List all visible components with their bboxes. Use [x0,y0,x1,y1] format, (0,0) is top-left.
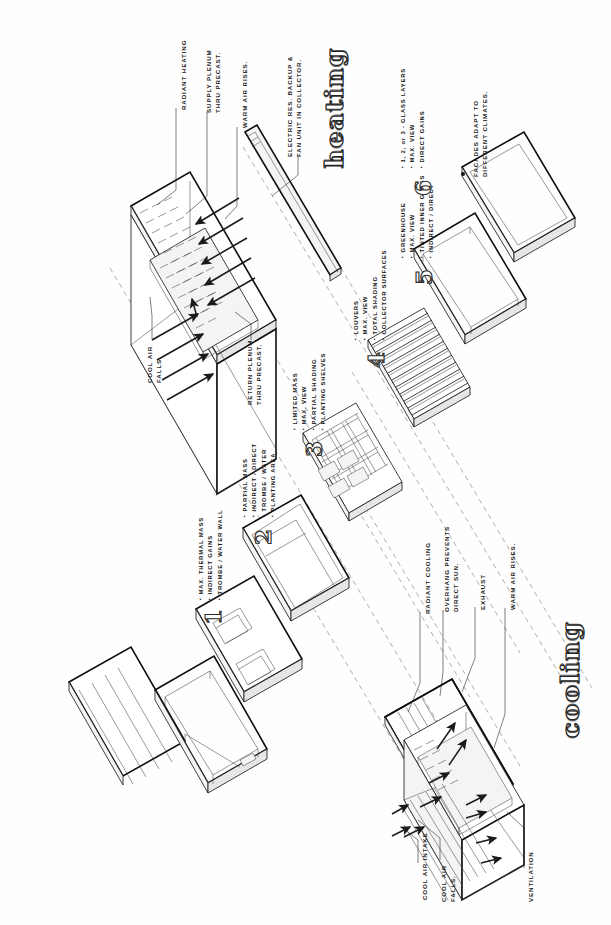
facade-number-2: 2 [249,529,276,545]
callout-cool-air-falls-cooling-line2: FALLS. [449,875,457,902]
facade-3-bullet-0: LIMITED MASS [290,353,299,430]
callout-warm-air-rises-cooling: WARM AIR RISES. [509,543,517,610]
facade-number-4: 4 [362,352,389,368]
facade-bullets-2: PARTIAL MASS INDIRECT / DIRECT TROMBE / … [240,443,278,517]
callout-cool-air-falls-line1: COOL AIR [146,346,154,383]
drawing-sheet: heating cooling RADIANT HEATING SUPPLY P… [0,0,611,925]
callout-radiant-heating: RADIANT HEATING [180,40,188,110]
facade-number-1: 1 [199,609,226,625]
summary-note-line2: DIFFERENT CLIMATES. [481,91,489,177]
callout-electric-backup-line1: ELECTRIC RES. BACKUP & [286,56,294,157]
facade-number-3: 3 [300,441,327,457]
facade-2-bullet-0: PARTIAL MASS [240,443,249,517]
facade-5-bullet-0: GREENHOUSE [398,175,407,258]
facade-4-bullet-3: COLLECTOR SURFACES [379,250,388,340]
callout-warm-air-rises: WARM AIR RISES. [241,61,249,128]
facade-3-bullet-2: PARTIAL SHADING [309,353,318,430]
facade-2-bullet-3: PLANTING AREA [268,443,277,517]
cooling-title: cooling [556,621,585,738]
callout-supply-plenum-line1: SUPPLY PLENUM [205,49,213,113]
callout-cool-air-intake: COOL AIR INTAKE [421,832,429,900]
summary-note-line1: FACADES ADAPT TO [472,100,480,177]
callout-supply-plenum-line2: THRU PRECAST. [214,52,222,113]
facade-6-bullet-1: MAX. VIEW [407,68,416,168]
facade-bullets-3: LIMITED MASS MAX. VIEW PARTIAL SHADING P… [290,353,328,430]
facade-bullets-4: LOUVERS MAX. VIEW TOTAL SHADING COLLECTO… [351,250,389,340]
facade-3-bullet-1: MAX. VIEW [299,353,308,430]
heating-title: heating [320,47,349,168]
facade-2-bullet-2: TROMBE / WATER [259,443,268,517]
callout-electric-backup-line2: FAN UNIT IN COLLECTOR. [295,59,303,157]
facade-number-5: 5 [410,269,437,285]
callout-radiant-cooling: RADIANT COOLING [424,542,432,614]
cooling-building [385,679,524,900]
callout-overhang-line2: DIRECT SUN. [452,563,460,612]
facade-4-bullet-0: LOUVERS [351,250,360,340]
facade-1-bullet-1: INDIRECT GAINS [205,510,214,600]
callout-return-plenum-line1: RETURN PLENUM [246,340,254,405]
callout-ventilation: VENTILATION [527,851,535,902]
facade-bullets-1: MAX. THERMAL MASS INDIRECT GAINS TROMBE … [196,510,224,600]
facade-bullets-6: 1, 2, or 3 - GLASS LAYERS MAX. VIEW DIRE… [398,68,426,168]
isometric-linework [0,0,611,925]
callout-cool-air-falls-line2: FALLS. [155,356,163,383]
facade-2-bullet-1: INDIRECT / DIRECT [249,443,258,517]
facade-3-bullet-3: PLANTING SHELVES [318,353,327,430]
facade-1-bullet-0: MAX. THERMAL MASS [196,510,205,600]
facade-6-bullet-0: 1, 2, or 3 - GLASS LAYERS [398,68,407,168]
facade-6-bullet-2: DIRECT GAINS [417,68,426,168]
facade-4-bullet-2: TOTAL SHADING [370,250,379,340]
callout-return-plenum-line2: THRU PRECAST. [255,344,263,405]
callout-overhang-line1: OVERHANG PREVENTS [443,526,451,612]
facade-1-bullet-2: TROMBE / WATER WALL [215,510,224,600]
callout-exhaust: EXHAUST [479,574,487,610]
callout-cool-air-falls-cooling-line1: COOL AIR [440,865,448,902]
facade-number-6: 6 [409,180,436,196]
facade-4-bullet-1: MAX. VIEW [360,250,369,340]
